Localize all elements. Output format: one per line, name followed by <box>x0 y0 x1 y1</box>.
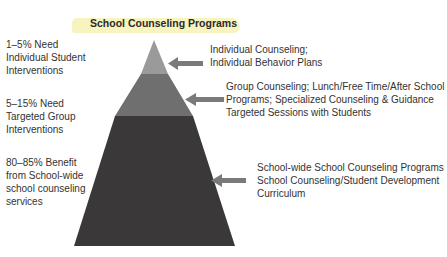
arrow-icon <box>211 174 246 187</box>
label-line: Group Counseling; Lunch/Free Time/After … <box>226 80 444 93</box>
label-line: School-wide School Counseling Programs <box>257 161 444 174</box>
tier-middle-right-label: Group Counseling; Lunch/Free Time/After … <box>226 80 444 119</box>
pyramid-tier-bottom <box>74 116 235 246</box>
tier-bottom-left-label: 80–85% Benefit from School-wide school c… <box>6 156 86 208</box>
label-line: Targeted Group <box>6 110 76 123</box>
tier-top-left-label: 1–5% Need Individual Student Interventio… <box>6 38 86 77</box>
arrow-icon <box>185 93 224 106</box>
label-line: Targeted Sessions with Students <box>226 106 444 119</box>
label-line: from School-wide <box>6 169 86 182</box>
label-line: Individual Student <box>6 51 86 64</box>
label-line: Individual Counseling; <box>210 43 322 56</box>
label-line: 80–85% Benefit <box>6 156 86 169</box>
label-line: services <box>6 195 86 208</box>
arrow-icon <box>168 57 203 70</box>
label-line: 1–5% Need <box>6 38 86 51</box>
label-line: Individual Behavior Plans <box>210 56 322 69</box>
tier-bottom-right-label: School-wide School Counseling Programs S… <box>257 161 444 200</box>
label-line: School Counseling/Student Development <box>257 174 444 187</box>
pyramid-tier-middle <box>115 74 193 116</box>
label-line: Interventions <box>6 64 86 77</box>
tier-top-right-label: Individual Counseling; Individual Behavi… <box>210 43 322 69</box>
label-line: Programs; Specialized Counseling & Guida… <box>226 93 444 106</box>
tier-middle-left-label: 5–15% Need Targeted Group Interventions <box>6 97 76 136</box>
label-line: 5–15% Need <box>6 97 76 110</box>
pyramid-tier-top <box>141 40 168 74</box>
label-line: school counseling <box>6 182 86 195</box>
label-line: Curriculum <box>257 187 444 200</box>
label-line: Interventions <box>6 123 76 136</box>
